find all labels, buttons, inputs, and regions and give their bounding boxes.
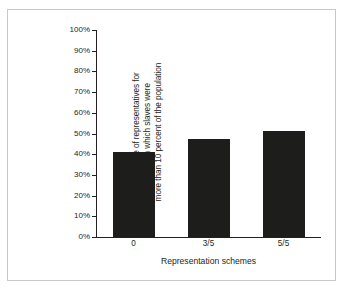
y-axis-tick-label: 60% [56, 109, 90, 117]
y-axis-tick-label: 0% [56, 233, 90, 241]
y-axis-tick-label: 20% [56, 192, 90, 200]
y-axis-tick-label: 40% [56, 150, 90, 158]
y-axis-title: Percentage of representatives for states… [21, 26, 61, 238]
x-axis-tick-label: 5/5 [246, 240, 321, 248]
x-axis-tick-label: 3/5 [171, 240, 246, 248]
figure-root: Percentage of representatives for states… [0, 0, 350, 288]
y-axis-tick-label: 10% [56, 212, 90, 220]
y-axis-tick-label: 70% [56, 88, 90, 96]
y-axis-line [96, 30, 97, 237]
y-axis-tick-label: 30% [56, 171, 90, 179]
x-axis-title: Representation schemes [96, 256, 321, 266]
bar-3-5 [188, 139, 230, 237]
y-axis-tick-label: 100% [56, 26, 90, 34]
bar-0 [113, 152, 155, 237]
x-axis-line [96, 237, 321, 238]
y-axis-tick-label: 80% [56, 67, 90, 75]
y-axis-tick-labels: 0%10%20%30%40%50%60%70%80%90%100% [56, 0, 90, 288]
x-axis-tick-label: 0 [96, 240, 171, 248]
y-axis-tick-label: 50% [56, 130, 90, 138]
y-axis-tick-label: 90% [56, 47, 90, 55]
bar-chart: Percentage of representatives for states… [0, 0, 350, 288]
bar-5-5 [263, 131, 305, 237]
